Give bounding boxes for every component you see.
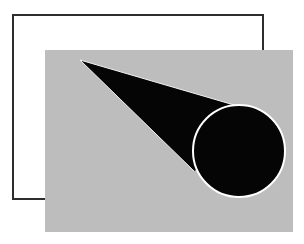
figure-svg [0,0,304,244]
diagram-canvas [0,0,304,244]
circle-base [193,105,285,197]
